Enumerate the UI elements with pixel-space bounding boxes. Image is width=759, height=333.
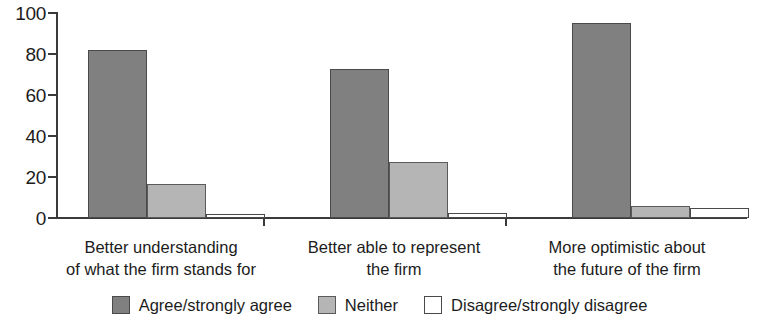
legend-item-agree: Agree/strongly agree [112, 296, 292, 314]
legend-label-disagree: Disagree/strongly disagree [451, 296, 647, 314]
y-tick-label-80: 80 [25, 45, 46, 64]
category-label-1: Better able to represent the firm [288, 236, 500, 280]
category-label-1-line-0: Better able to represent [288, 236, 500, 258]
bar-g0-s2 [206, 214, 265, 218]
bar-g1-s0 [330, 69, 389, 218]
category-label-1-line-1: the firm [288, 258, 500, 280]
legend-label-neither: Neither [345, 296, 398, 314]
plot-area [57, 13, 747, 218]
legend-swatch-icon-disagree [424, 296, 442, 314]
bar-g1-s2 [448, 213, 507, 218]
y-tick-label-20: 20 [25, 168, 46, 187]
category-label-0-line-0: Better understanding [47, 236, 275, 258]
category-label-2: More optimistic about the future of the … [519, 236, 735, 280]
y-tick-label-0: 0 [36, 209, 46, 228]
category-label-0-line-1: of what the firm stands for [47, 258, 275, 280]
bar-g1-s1 [389, 162, 448, 218]
bar-chart: 100 80 60 40 20 0 Better understanding o… [0, 0, 759, 333]
y-tick-label-100: 100 [15, 4, 46, 23]
legend-swatch-icon-neither [318, 296, 336, 314]
bar-g0-s1 [147, 184, 206, 218]
bar-g0-s0 [88, 50, 147, 218]
x-tick-mark-1 [263, 219, 265, 226]
category-label-0: Better understanding of what the firm st… [47, 236, 275, 280]
legend-item-neither: Neither [318, 296, 398, 314]
bar-g2-s1 [631, 206, 690, 218]
x-tick-mark-2 [505, 219, 507, 226]
category-label-2-line-0: More optimistic about [519, 236, 735, 258]
legend-item-disagree: Disagree/strongly disagree [424, 296, 647, 314]
category-label-2-line-1: the future of the firm [519, 258, 735, 280]
chart-legend: Agree/strongly agree Neither Disagree/st… [0, 296, 759, 314]
bar-g2-s2 [690, 208, 749, 218]
y-tick-label-60: 60 [25, 86, 46, 105]
legend-label-agree: Agree/strongly agree [139, 296, 292, 314]
y-tick-label-40: 40 [25, 127, 46, 146]
legend-swatch-icon-agree [112, 296, 130, 314]
bar-g2-s0 [572, 23, 631, 218]
